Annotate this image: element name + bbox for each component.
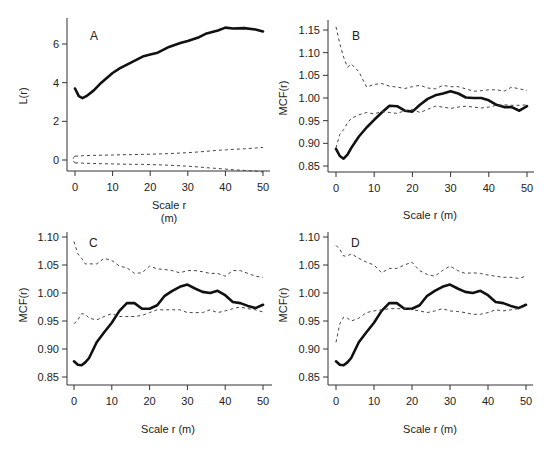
observed-line [74,285,263,366]
y-tick-label: 0.85 [38,371,59,383]
envelope-line [336,105,527,148]
panel-a-x-axis-label-unit: (m) [161,212,178,224]
observed-line [336,285,526,366]
y-tick-label: 0.95 [299,115,320,127]
y-tick-label: 1.05 [38,259,59,271]
panel-b-x-axis-label: Scale r (m) [403,209,457,221]
panel-d-plot-area: 0.850.900.951.001.051.1001020304050 [299,231,533,407]
panel-c: C MCF(r) Scale r (m) 0.850.900.951.001.0… [17,231,272,435]
panel-d-y-axis-label: MCF(r) [277,288,289,323]
envelope-line [336,306,526,342]
y-tick-label: 0.90 [299,343,320,355]
envelope-join [73,156,75,163]
envelope-line [74,242,263,278]
y-tick-label: 1.10 [38,231,59,243]
x-tick-label: 40 [483,182,495,194]
x-tick-label: 50 [257,181,269,193]
x-tick-label: 0 [333,395,339,407]
panel-a: A L(r) Scale r (m) 024601020304050 [17,18,270,224]
y-tick-label: 1.00 [299,287,320,299]
y-tick-label: 1.10 [299,231,320,243]
y-tick-label: 1.00 [299,92,320,104]
envelope-line [336,245,526,278]
x-tick-label: 50 [257,395,269,407]
x-tick-label: 30 [444,182,456,194]
y-tick-label: 1.10 [299,47,320,59]
panel-c-y-axis-label: MCF(r) [17,288,29,323]
y-tick-label: 0.90 [38,343,59,355]
panel-d: D MCF(r) Scale r (m) 0.850.900.951.001.0… [277,231,533,435]
x-tick-label: 40 [219,181,231,193]
x-tick-label: 10 [368,182,380,194]
panel-c-plot-area: 0.850.900.951.001.051.1001020304050 [38,231,272,407]
panel-a-plot-area: 024601020304050 [53,18,270,193]
x-tick-label: 50 [520,395,532,407]
panel-a-x-axis-label: Scale r [152,199,187,211]
x-tick-label: 0 [72,181,78,193]
y-tick-label: 6 [53,38,59,50]
panel-b-y-axis-label: MCF(r) [277,81,289,116]
x-tick-label: 20 [144,181,156,193]
x-tick-label: 20 [143,395,155,407]
y-tick-label: 0.85 [299,371,320,383]
x-tick-label: 10 [368,395,380,407]
observed-line [75,28,263,99]
y-tick-label: 0.95 [38,315,59,327]
x-tick-label: 30 [444,395,456,407]
envelope-line [75,147,263,156]
y-tick-label: 0.95 [299,315,320,327]
x-tick-label: 40 [219,395,231,407]
figure-4-panel-chart: A L(r) Scale r (m) 024601020304050 B MCF… [0,0,553,451]
panel-b: B MCF(r) Scale r (m) 0.850.900.951.001.0… [277,20,534,221]
panel-d-letter: D [351,236,360,250]
x-tick-label: 0 [333,182,339,194]
observed-line [336,91,527,159]
x-tick-label: 20 [406,395,418,407]
panel-b-plot-area: 0.850.900.951.001.051.101.1501020304050 [299,20,534,194]
y-tick-label: 1.00 [38,287,59,299]
y-tick-label: 1.05 [299,69,320,81]
x-tick-label: 50 [521,182,533,194]
y-tick-label: 0 [53,154,59,166]
x-tick-label: 10 [106,395,118,407]
panel-a-letter: A [90,29,98,43]
x-tick-label: 10 [106,181,118,193]
y-tick-label: 0.90 [299,137,320,149]
x-tick-label: 30 [182,181,194,193]
panel-b-letter: B [352,29,360,43]
panel-c-letter: C [89,236,98,250]
panel-a-y-axis-label: L(r) [17,87,29,104]
panel-d-x-axis-label: Scale r (m) [403,423,457,435]
y-tick-label: 1.05 [299,259,320,271]
y-tick-label: 4 [53,77,59,89]
y-tick-label: 0.85 [299,160,320,172]
x-tick-label: 30 [181,395,193,407]
x-tick-label: 20 [406,182,418,194]
y-tick-label: 2 [53,115,59,127]
envelope-line [336,27,527,91]
envelope-line [74,307,263,324]
panel-c-x-axis-label: Scale r (m) [141,423,195,435]
y-tick-label: 1.15 [299,24,320,36]
x-tick-label: 40 [482,395,494,407]
x-tick-label: 0 [71,395,77,407]
